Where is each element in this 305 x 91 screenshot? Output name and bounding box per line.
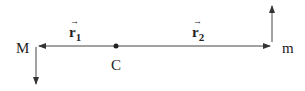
label-m: m: [282, 41, 294, 56]
label-r1: →r1: [69, 25, 81, 43]
vector-arrow-icon: →: [70, 17, 79, 26]
center-of-mass-dot: [114, 44, 119, 49]
label-M: M: [16, 41, 29, 56]
label-r2: →r2: [192, 25, 204, 43]
two-body-diagram: M C m →r1 →r2: [0, 0, 305, 91]
label-C: C: [111, 58, 121, 73]
diagram-canvas: [0, 0, 305, 91]
vector-arrow-icon: →: [193, 17, 202, 26]
